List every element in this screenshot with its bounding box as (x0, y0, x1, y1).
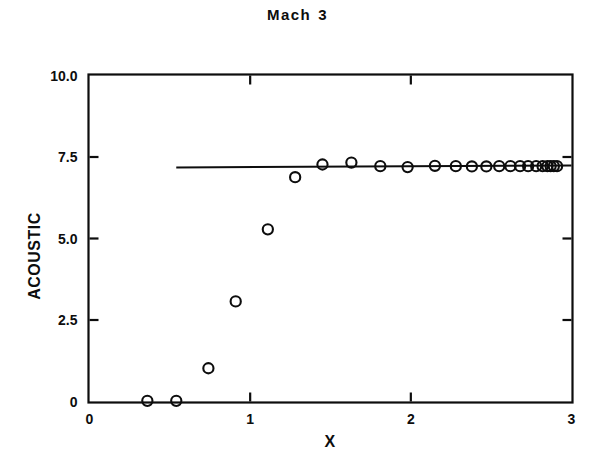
asymptote-line-group (176, 165, 571, 167)
x-axis-title: X (324, 433, 335, 450)
y-tick-label-3: 7.5 (58, 149, 78, 165)
y-tick-label-2: 5.0 (58, 231, 78, 247)
axes-border (89, 75, 573, 403)
y-tick-label-4: 10.0 (50, 68, 77, 84)
y-axis-title: ACOUSTIC (26, 212, 43, 300)
data-point (142, 396, 152, 406)
data-point (231, 296, 241, 306)
data-point (317, 159, 327, 169)
x-tick-label-2: 2 (407, 411, 415, 427)
x-tick-label-3: 3 (568, 411, 576, 427)
x-tick-label-0: 0 (86, 411, 94, 427)
scatter-plot: 012302.55.07.510.0 X ACOUSTIC (0, 0, 595, 467)
x-tick-label-1: 1 (246, 411, 254, 427)
plot-frame (89, 75, 573, 403)
tick-labels-group: 012302.55.07.510.0 (50, 68, 575, 427)
data-point (171, 396, 181, 406)
data-points-group (142, 157, 562, 406)
data-point (203, 363, 213, 373)
y-tick-label-1: 2.5 (58, 312, 78, 328)
tick-marks-group (90, 76, 572, 402)
figure-container: Mach3 012302.55.07.510.0 X ACOUSTIC (0, 0, 595, 467)
data-point (290, 172, 300, 182)
y-tick-label-0: 0 (70, 394, 78, 410)
asymptote-line (176, 165, 571, 167)
data-point (263, 224, 273, 234)
